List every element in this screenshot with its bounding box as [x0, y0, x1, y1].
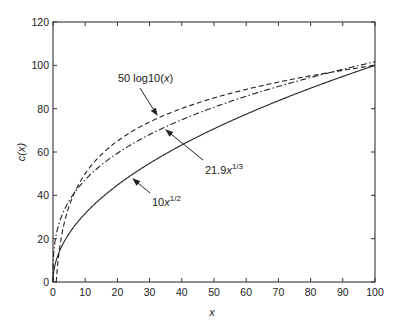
- x-tick-label: 20: [112, 286, 124, 298]
- y-tick-label: 60: [37, 146, 49, 158]
- y-axis-ticks: 020406080100120: [31, 16, 375, 288]
- annotation-arrow: [166, 130, 203, 160]
- y-tick-label: 20: [37, 233, 49, 245]
- y-tick-label: 80: [37, 103, 49, 115]
- x-axis-label: x: [208, 306, 215, 318]
- x-tick-label: 90: [337, 286, 349, 298]
- x-tick-label: 70: [273, 286, 285, 298]
- annotations: 50 log10(x)21.9x1/310x1/2: [118, 72, 244, 208]
- chart: 0102030405060708090100 020406080100120 5…: [0, 0, 401, 327]
- x-tick-label: 40: [176, 286, 188, 298]
- y-tick-label: 0: [43, 276, 49, 288]
- x-tick-label: 30: [144, 286, 156, 298]
- x-tick-label: 60: [240, 286, 252, 298]
- y-axis-label: c(x): [15, 143, 27, 162]
- x-tick-label: 10: [79, 286, 91, 298]
- x-tick-label: 100: [366, 286, 384, 298]
- annotation-label: 21.9x1/3: [205, 162, 244, 176]
- x-tick-label: 80: [305, 286, 317, 298]
- plot-area-border: [53, 22, 375, 282]
- y-tick-label: 100: [31, 59, 49, 71]
- y-tick-label: 120: [31, 16, 49, 28]
- annotation-arrow: [140, 88, 157, 115]
- x-axis-ticks: 0102030405060708090100: [50, 22, 384, 298]
- x-tick-label: 50: [208, 286, 220, 298]
- annotation-arrow: [133, 179, 150, 193]
- annotation-label: 50 log10(x): [118, 72, 173, 84]
- annotation-label: 10x1/2: [152, 194, 181, 208]
- plot-frame: [53, 22, 375, 282]
- y-tick-label: 40: [37, 189, 49, 201]
- x-tick-label: 0: [50, 286, 56, 298]
